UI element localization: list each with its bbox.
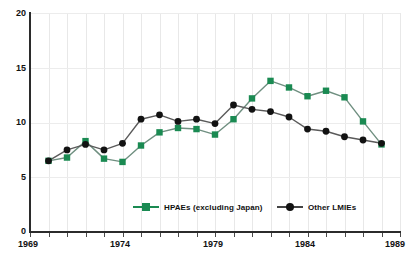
data-point-marker xyxy=(212,120,219,127)
data-point-marker xyxy=(138,142,144,148)
data-point-marker xyxy=(101,146,108,153)
data-point-marker xyxy=(101,155,107,161)
data-point-marker xyxy=(119,140,126,147)
legend-marker-circle-icon xyxy=(286,203,294,211)
data-point-marker xyxy=(193,126,199,132)
data-point-marker xyxy=(249,106,256,113)
legend-line-other-lmies xyxy=(277,206,303,208)
chart-legend: HPAEs (excluding Japan) Other LMIEs xyxy=(133,200,373,214)
data-point-marker xyxy=(360,137,367,144)
data-point-marker xyxy=(175,118,182,125)
data-point-marker xyxy=(378,140,385,147)
x-axis-tick-mark xyxy=(67,233,68,237)
x-axis-tick-mark xyxy=(382,233,383,237)
data-point-marker xyxy=(82,141,89,148)
data-point-marker xyxy=(119,159,125,165)
x-axis-tick-mark xyxy=(252,233,253,237)
data-point-marker xyxy=(286,114,293,121)
legend-label-hpaes: HPAEs (excluding Japan) xyxy=(164,203,263,212)
series-plot xyxy=(0,0,411,261)
data-point-marker xyxy=(45,157,52,164)
data-point-marker xyxy=(286,84,292,90)
x-axis-tick-mark xyxy=(104,233,105,237)
data-point-marker xyxy=(323,128,330,135)
legend-line-hpaes xyxy=(133,206,159,208)
x-axis-tick-mark xyxy=(141,233,142,237)
x-axis-tick-mark xyxy=(178,233,179,237)
legend-label-other-lmies: Other LMIEs xyxy=(308,203,356,212)
x-axis-tick-mark xyxy=(197,233,198,237)
data-point-marker xyxy=(212,131,218,137)
x-axis-tick-mark xyxy=(289,233,290,237)
data-point-marker xyxy=(175,125,181,131)
data-point-marker xyxy=(156,111,163,118)
x-axis-tick-mark xyxy=(363,233,364,237)
data-point-marker xyxy=(267,108,274,115)
legend-entry-other-lmies: Other LMIEs xyxy=(277,200,356,214)
x-axis-tick-mark xyxy=(400,233,401,237)
data-point-marker xyxy=(249,95,255,101)
data-point-marker xyxy=(360,118,366,124)
x-axis-tick-mark xyxy=(123,233,124,237)
x-axis-tick-mark xyxy=(345,233,346,237)
x-axis-tick-mark xyxy=(30,233,31,237)
x-axis-tick-mark xyxy=(215,233,216,237)
data-point-marker xyxy=(64,154,70,160)
data-point-marker xyxy=(267,78,273,84)
data-point-marker xyxy=(138,116,145,123)
x-axis-tick-mark xyxy=(234,233,235,237)
data-point-marker xyxy=(193,116,200,123)
x-axis-tick-mark xyxy=(49,233,50,237)
data-point-marker xyxy=(230,102,237,109)
data-point-marker xyxy=(341,133,348,140)
x-axis-tick-mark xyxy=(308,233,309,237)
data-point-marker xyxy=(304,93,310,99)
data-point-marker xyxy=(341,94,347,100)
data-point-marker xyxy=(64,146,71,153)
legend-marker-square-icon xyxy=(142,203,150,211)
x-axis-tick-mark xyxy=(271,233,272,237)
data-point-marker xyxy=(304,126,311,133)
chart-figure: 20 15 10 5 0 1969 1974 1979 1984 1989 HP… xyxy=(0,0,411,261)
data-point-marker xyxy=(323,88,329,94)
x-axis-tick-mark xyxy=(160,233,161,237)
data-point-marker xyxy=(156,129,162,135)
legend-entry-hpaes: HPAEs (excluding Japan) xyxy=(133,200,263,214)
x-axis-tick-mark xyxy=(326,233,327,237)
x-axis-tick-mark xyxy=(86,233,87,237)
data-point-marker xyxy=(230,116,236,122)
